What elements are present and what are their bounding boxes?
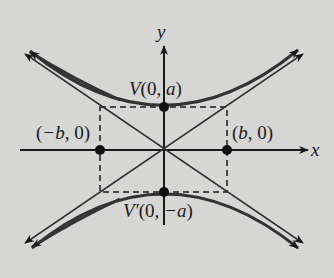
x-axis-label: x [310,139,320,160]
vertex-bottom-point [159,187,169,197]
vertex-bottom-label: V′(0, −a) [123,200,193,222]
lower-branch-left [32,199,120,247]
right-point [222,145,232,155]
left-point [95,145,105,155]
vertex-top-label: V(0, a) [129,78,182,100]
upper-branch-left [30,52,120,100]
left-point-label: (−b, 0) [36,122,90,144]
hyperbola-diagram: x y V(0, a) V′(0, −a) (−b, 0) (b, 0) [0,0,334,278]
vertex-top-point [159,102,169,112]
right-point-label: (b, 0) [232,122,273,144]
y-axis-label: y [155,21,166,42]
